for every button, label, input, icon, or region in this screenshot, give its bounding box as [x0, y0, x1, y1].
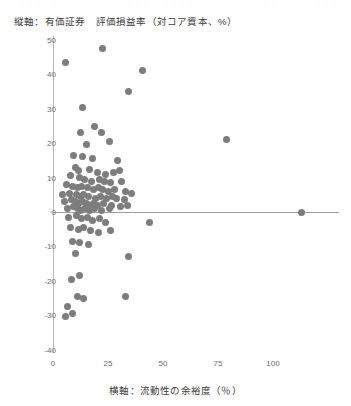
data-point [72, 250, 79, 257]
data-point [85, 241, 92, 248]
data-point [146, 219, 153, 226]
data-point [68, 276, 75, 283]
data-point [69, 310, 76, 317]
data-point [79, 153, 86, 160]
y-tick-mark [50, 280, 54, 281]
data-point [102, 171, 109, 178]
y-tick-mark [50, 74, 54, 75]
data-point [107, 227, 114, 234]
data-point [114, 157, 121, 164]
data-point [62, 59, 69, 66]
data-point [77, 129, 84, 136]
data-point [98, 129, 105, 136]
data-point [298, 209, 305, 216]
data-point [87, 227, 94, 234]
data-point [118, 178, 125, 185]
data-point [67, 224, 74, 231]
data-point [139, 67, 146, 74]
y-tick-mark [50, 349, 54, 350]
scatter-chart-figure: ··· ···· ···· ···· ···· ··· ··· ·· ··· ·… [0, 0, 351, 406]
y-tick-mark [50, 246, 54, 247]
data-point [86, 166, 93, 173]
x-tick-label: 50 [143, 359, 183, 368]
x-tick-label: 75 [198, 359, 238, 368]
data-point [223, 136, 230, 143]
data-point [125, 253, 132, 260]
data-point [80, 295, 87, 302]
data-point [106, 205, 113, 212]
data-point [95, 229, 102, 236]
data-point [124, 202, 131, 209]
data-point [125, 88, 132, 95]
data-point [79, 104, 86, 111]
data-point [64, 303, 71, 310]
data-point [98, 207, 105, 214]
data-point [89, 155, 96, 162]
y-tick-mark [50, 315, 54, 316]
plot-area: 50403020100-10-20-30-40 0255075100 [0, 0, 351, 406]
x-tick-label: 100 [253, 359, 293, 368]
data-point [67, 172, 74, 179]
y-tick-mark [50, 40, 54, 41]
y-tick-mark [50, 177, 54, 178]
data-point [91, 123, 98, 130]
data-point [76, 272, 83, 279]
data-point [70, 152, 77, 159]
data-point [76, 239, 83, 246]
data-point [116, 167, 123, 174]
x-tick-label: 25 [88, 359, 128, 368]
data-point [83, 141, 90, 148]
zero-reference-line [53, 212, 339, 213]
data-point [99, 45, 106, 52]
data-point [128, 190, 135, 197]
data-point [102, 219, 109, 226]
data-point [62, 313, 69, 320]
data-point [117, 203, 124, 210]
y-tick-mark [50, 108, 54, 109]
data-point [94, 169, 101, 176]
data-point [65, 214, 72, 221]
data-point [113, 195, 120, 202]
data-point [106, 138, 113, 145]
data-point [85, 193, 92, 200]
y-tick-mark [50, 212, 54, 213]
data-point [122, 293, 129, 300]
x-axis-label: 横軸：流動性の余裕度（％） [0, 383, 351, 397]
x-tick-label: 0 [33, 359, 73, 368]
y-tick-mark [50, 143, 54, 144]
y-axis-spine [53, 36, 54, 353]
